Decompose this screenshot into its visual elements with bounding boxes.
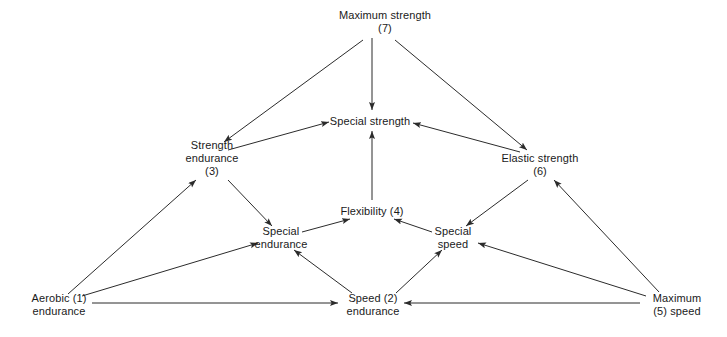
node-label-line-1: Speed (2)	[347, 292, 400, 305]
node-aerobic-endurance: Aerobic (1)endurance	[32, 292, 87, 318]
node-label-line-1: Flexibility (4)	[340, 205, 403, 218]
node-label-line-1: Strength	[186, 139, 239, 152]
node-label-line-1: Special	[255, 225, 308, 238]
edge-elastic-strength-to-special-strength	[413, 123, 520, 152]
edge-maximum-speed-to-elastic-strength	[554, 180, 659, 292]
node-label-line-1: Special	[435, 225, 472, 238]
node-special-speed: Specialspeed	[435, 225, 472, 251]
node-label-line-1: Special strength	[330, 115, 410, 128]
edge-aerobic-endurance-to-strength-endurance	[68, 180, 196, 294]
edge-speed-endurance-to-special-speed	[396, 250, 442, 293]
training-qualities-diagram: Maximum strength(7)Special strengthStren…	[0, 0, 727, 337]
edge-aerobic-endurance-to-special-endurance	[82, 243, 258, 296]
edge-strength-endurance-to-special-strength	[228, 122, 329, 150]
node-label-line-2: endurance	[347, 305, 400, 318]
node-flexibility: Flexibility (4)	[340, 205, 403, 218]
edge-layer	[0, 0, 727, 337]
node-label-line-1: Aerobic (1)	[32, 292, 87, 305]
node-speed-endurance: Speed (2)endurance	[347, 292, 400, 318]
node-label-line-3: (3)	[186, 165, 239, 178]
node-label-line-2: (5) speed	[653, 305, 701, 318]
node-label-line-1: Maximum	[653, 292, 701, 305]
node-label-line-2: endurance	[32, 305, 87, 318]
node-label-line-2: (7)	[339, 22, 431, 35]
edge-max-strength-to-elastic-strength	[395, 40, 527, 150]
node-special-strength: Special strength	[330, 115, 410, 128]
edge-special-speed-to-flexibility	[394, 219, 432, 232]
node-label-line-2: speed	[435, 238, 472, 251]
node-label-line-2: endurance	[255, 238, 308, 251]
node-label-line-2: (6)	[502, 165, 579, 178]
node-elastic-strength: Elastic strength(6)	[502, 152, 579, 178]
node-label-line-1: Maximum strength	[339, 9, 431, 22]
node-maximum-strength: Maximum strength(7)	[339, 9, 431, 35]
node-maximum-speed: Maximum(5) speed	[653, 292, 701, 318]
edge-elastic-strength-to-special-speed	[466, 180, 528, 226]
node-label-line-2: endurance	[186, 152, 239, 165]
edge-speed-endurance-to-special-endurance	[294, 250, 352, 293]
edge-strength-endurance-to-special-endurance	[228, 180, 272, 226]
node-special-endurance: Specialendurance	[255, 225, 308, 251]
node-label-line-1: Elastic strength	[502, 152, 579, 165]
edge-special-endurance-to-flexibility	[302, 219, 350, 232]
node-strength-endurance: Strengthendurance(3)	[186, 139, 239, 178]
